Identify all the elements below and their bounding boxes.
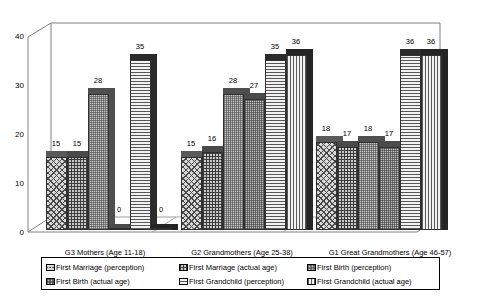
legend-swatch-icon bbox=[46, 264, 55, 271]
category-label-g1: G1 Great Grandmothers (Age 46-57) bbox=[300, 248, 480, 257]
bar-g3-first-birth-actual bbox=[109, 229, 130, 230]
bar-g3-first-grandchild-actual bbox=[151, 229, 172, 230]
plot-area: 40 30 20 10 0 15 15 28 bbox=[0, 0, 481, 250]
legend-swatch-icon bbox=[307, 278, 316, 285]
bar-g2-first-birth-actual bbox=[244, 99, 265, 230]
bar-g1-first-grandchild-perception bbox=[400, 55, 421, 230]
legend-item-first-marriage-actual[interactable]: First Marriage (actual age) bbox=[179, 263, 307, 272]
legend-label: First Grandchild (actual age) bbox=[317, 277, 412, 286]
legend-item-first-birth-perception[interactable]: First Birth (perception) bbox=[307, 263, 391, 272]
value-label: 27 bbox=[241, 82, 267, 90]
y-tick-10: 10 bbox=[2, 180, 24, 188]
bar-g1-first-marriage-perception bbox=[316, 142, 337, 230]
legend-label: First Marriage (perception) bbox=[56, 263, 144, 272]
legend-row-1: First Marriage (perception) First Marria… bbox=[46, 261, 435, 273]
bar-g3-first-marriage-actual bbox=[67, 157, 88, 230]
bar-g3-first-marriage-perception bbox=[46, 157, 67, 230]
chart-container: 40 30 20 10 0 15 15 28 bbox=[0, 0, 481, 296]
chart-legend: First Marriage (perception) First Marria… bbox=[41, 257, 440, 290]
bar-g2-first-grandchild-perception bbox=[265, 60, 286, 230]
value-label: 0 bbox=[106, 206, 132, 214]
value-label: 28 bbox=[85, 77, 111, 85]
y-tick-30: 30 bbox=[2, 82, 24, 90]
legend-swatch-icon bbox=[179, 278, 188, 285]
value-label: 36 bbox=[283, 38, 309, 46]
legend-swatch-icon bbox=[307, 264, 316, 271]
legend-row-2: First Birth (actual age) First Grandchil… bbox=[46, 275, 435, 287]
bar-g2-first-birth-perception bbox=[223, 94, 244, 230]
y-tick-40: 40 bbox=[2, 33, 24, 41]
legend-item-first-grandchild-perception[interactable]: First Grandchild (perception) bbox=[179, 277, 307, 286]
bar-g2-first-marriage-perception bbox=[181, 157, 202, 230]
value-label: 16 bbox=[199, 135, 225, 143]
value-label: 0 bbox=[148, 206, 174, 214]
value-label: 36 bbox=[418, 38, 444, 46]
bar-g1-first-grandchild-actual bbox=[421, 55, 442, 230]
legend-item-first-birth-actual[interactable]: First Birth (actual age) bbox=[46, 277, 179, 286]
bar-g1-first-marriage-actual bbox=[337, 147, 358, 230]
y-tick-20: 20 bbox=[2, 131, 24, 139]
bar-g3-first-grandchild-perception bbox=[130, 60, 151, 230]
bar-g2-first-grandchild-actual bbox=[286, 55, 307, 230]
legend-label: First Grandchild (perception) bbox=[189, 277, 284, 286]
bar-g2-first-marriage-actual bbox=[202, 152, 223, 230]
legend-label: First Birth (perception) bbox=[317, 263, 391, 272]
bar-g1-first-birth-perception bbox=[358, 142, 379, 230]
legend-swatch-icon bbox=[179, 264, 188, 271]
legend-label: First Birth (actual age) bbox=[56, 277, 130, 286]
bar-g1-first-birth-actual bbox=[379, 147, 400, 230]
legend-item-first-grandchild-actual[interactable]: First Grandchild (actual age) bbox=[307, 277, 412, 286]
legend-swatch-icon bbox=[46, 278, 55, 285]
y-tick-0: 0 bbox=[2, 229, 24, 237]
value-label: 17 bbox=[376, 130, 402, 138]
legend-label: First Marriage (actual age) bbox=[189, 263, 277, 272]
value-label: 15 bbox=[64, 140, 90, 148]
legend-item-first-marriage-perception[interactable]: First Marriage (perception) bbox=[46, 263, 179, 272]
value-label: 35 bbox=[127, 43, 153, 51]
